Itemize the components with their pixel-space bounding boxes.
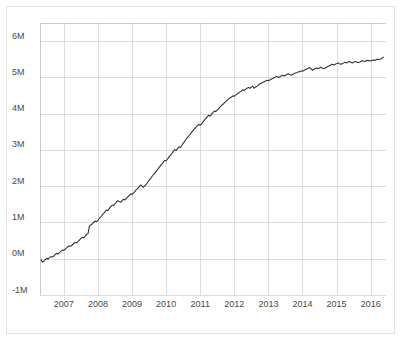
y-gridlines xyxy=(40,42,386,296)
y-tick-label: 1M xyxy=(12,212,25,222)
y-tick-label: 5M xyxy=(12,67,25,77)
chart-frame: -1M0M1M2M3M4M5M6M 2007200820092010201120… xyxy=(6,6,395,334)
x-tick-label: 2011 xyxy=(191,299,210,309)
x-tick-label: 2007 xyxy=(54,299,74,309)
y-tick-label: 0M xyxy=(12,248,25,258)
y-tick-label: 2M xyxy=(12,176,25,186)
chart-container: -1M0M1M2M3M4M5M6M 2007200820092010201120… xyxy=(0,0,401,348)
y-tick-labels: -1M0M1M2M3M4M5M6M xyxy=(12,31,28,295)
x-tick-label: 2008 xyxy=(88,299,108,309)
x-tick-label: 2012 xyxy=(224,299,244,309)
x-tick-label: 2010 xyxy=(156,299,176,309)
data-series-group xyxy=(41,57,383,262)
axis-lines xyxy=(40,23,386,295)
x-tick-label: 2013 xyxy=(258,299,278,309)
x-tick-label: 2015 xyxy=(327,299,347,309)
x-tick-labels: 2007200820092010201120122013201420152016 xyxy=(54,299,381,309)
x-tick-label: 2016 xyxy=(361,299,381,309)
y-tick-label: 6M xyxy=(12,31,25,41)
series-line xyxy=(41,57,383,262)
line-chart-plot: -1M0M1M2M3M4M5M6M 2007200820092010201120… xyxy=(7,7,394,333)
y-tick-label: 3M xyxy=(12,139,25,149)
y-tick-label: 4M xyxy=(12,103,25,113)
x-gridlines xyxy=(65,23,372,295)
x-tick-label: 2009 xyxy=(122,299,142,309)
y-tick-label: -1M xyxy=(12,285,28,295)
x-tick-label: 2014 xyxy=(292,299,312,309)
